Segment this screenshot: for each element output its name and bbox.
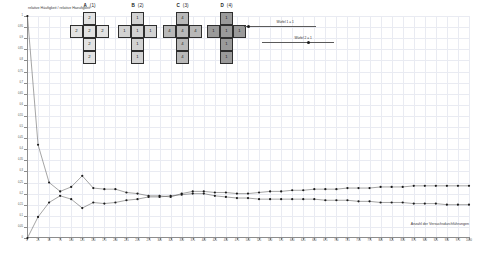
dice-net-grid: 222222: [70, 12, 109, 64]
data-point: [357, 187, 359, 189]
data-point: [269, 198, 271, 200]
data-point: [125, 199, 127, 201]
dice-net-cell-mid: 1: [131, 25, 144, 38]
data-point: [335, 199, 337, 201]
data-point: [37, 144, 39, 146]
dice-net-index: (1): [90, 3, 96, 8]
data-point: [192, 193, 194, 195]
data-point: [413, 185, 415, 187]
x-tick-label: 50: [48, 240, 51, 243]
chart-app: 0255075100125150175200225250275300325350…: [0, 0, 485, 261]
x-tick-label: 650: [312, 240, 316, 243]
dice-net-cell-left: 1: [207, 25, 220, 38]
data-point: [435, 202, 437, 204]
x-tick-label: 375: [191, 240, 195, 243]
x-tick-label: 75: [59, 240, 62, 243]
data-point: [236, 197, 238, 199]
data-point: [81, 207, 83, 209]
data-point: [48, 181, 50, 183]
dice-net-cell-top: 1: [220, 12, 233, 25]
dice-net-letter: A: [84, 3, 87, 8]
slider-group: Würfel 1 = 1Würfel 2 = 1: [244, 20, 364, 48]
slider-knob[interactable]: [307, 41, 310, 44]
x-tick-label: 725: [345, 240, 349, 243]
dice-net-letter: B: [132, 3, 135, 8]
dice-net-letter: D: [221, 3, 224, 8]
data-point: [302, 198, 304, 200]
data-point: [424, 185, 426, 187]
x-tick-label: 400: [202, 240, 206, 243]
data-point: [269, 190, 271, 192]
dice-net-index: (2): [138, 3, 144, 8]
data-point: [280, 190, 282, 192]
data-point: [380, 201, 382, 203]
x-tick-label: 875: [412, 240, 416, 243]
data-point: [258, 198, 260, 200]
y-tick-label: 0,4: [19, 148, 23, 151]
data-point: [380, 186, 382, 188]
x-tick-label: 275: [146, 240, 150, 243]
x-tick-label: 1000: [466, 240, 472, 243]
data-point: [181, 194, 183, 196]
data-point: [114, 201, 116, 203]
dice-net-cell-bot2: 2: [83, 51, 96, 64]
data-point: [424, 202, 426, 204]
x-tick-label: 475: [235, 240, 239, 243]
dice-net-a: A(1)222222: [70, 12, 109, 64]
dice-net-title: D(4): [221, 3, 233, 8]
data-point: [446, 185, 448, 187]
x-tick-label: 500: [246, 240, 250, 243]
x-tick-label: 975: [456, 240, 460, 243]
x-tick-label: 775: [367, 240, 371, 243]
data-point: [37, 216, 39, 218]
x-tick-label: 0: [26, 240, 27, 243]
y-tick-label: 0,7: [19, 81, 23, 84]
dice-net-cell-bot2: 4: [176, 51, 189, 64]
dice-net-cell-bot2: 1: [131, 51, 144, 64]
dice-net-c: C(3)444444: [163, 12, 202, 64]
y-tick-label: 0,45: [18, 137, 23, 140]
data-point: [247, 197, 249, 199]
x-tick-label: 25: [37, 240, 40, 243]
x-tick-label: 750: [356, 240, 360, 243]
dice-net-cell-left: 2: [70, 25, 83, 38]
data-point: [192, 190, 194, 192]
data-point: [136, 193, 138, 195]
dice-net-title: B(2): [132, 3, 144, 8]
dice-net-cell-mid: 4: [176, 25, 189, 38]
slider-label: Würfel 2 = 1: [294, 37, 311, 40]
x-tick-label: 175: [102, 240, 106, 243]
data-point: [70, 198, 72, 200]
data-point: [346, 187, 348, 189]
data-point: [335, 188, 337, 190]
data-point: [236, 193, 238, 195]
y-tick-label: 0,1: [19, 215, 23, 218]
x-tick-label: 625: [301, 240, 305, 243]
slider-track[interactable]: [244, 26, 316, 27]
slider-knob[interactable]: [247, 25, 250, 28]
x-tick-label: 925: [434, 240, 438, 243]
data-point: [357, 200, 359, 202]
slider-label: Würfel 1 = 1: [276, 21, 293, 24]
data-point: [70, 186, 72, 188]
slider-track[interactable]: [262, 42, 334, 43]
data-point: [214, 191, 216, 193]
data-point: [391, 186, 393, 188]
dice-net-cell-right: 2: [96, 25, 109, 38]
data-point: [103, 202, 105, 204]
x-tick-label: 200: [113, 240, 117, 243]
data-point: [59, 195, 61, 197]
data-point: [402, 186, 404, 188]
dice-net-b: B(2)111111: [118, 12, 157, 64]
x-tick-label: 900: [423, 240, 427, 243]
data-point: [225, 196, 227, 198]
y-tick-label: 0,2: [19, 192, 23, 195]
data-point: [125, 191, 127, 193]
data-point: [324, 188, 326, 190]
y-tick-label: 0,3: [19, 170, 23, 173]
data-point: [468, 204, 470, 206]
x-tick-label: 350: [180, 240, 184, 243]
data-point: [214, 195, 216, 197]
x-tick-label: 125: [80, 240, 84, 243]
data-point: [114, 188, 116, 190]
